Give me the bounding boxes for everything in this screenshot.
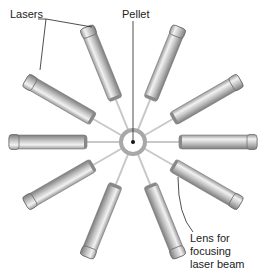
lasers-label: Lasers xyxy=(10,8,43,21)
lens-leader-line xyxy=(178,177,193,232)
pellet-label: Pellet xyxy=(122,8,150,21)
lens-label-line3: laser beam xyxy=(190,258,244,271)
laser-5 xyxy=(9,135,121,150)
laser-6 xyxy=(145,135,257,150)
lasers-leader-line-2 xyxy=(40,19,46,70)
lens-label-line2: focusing xyxy=(190,245,231,258)
lens-label-line1: Lens for xyxy=(190,232,230,245)
